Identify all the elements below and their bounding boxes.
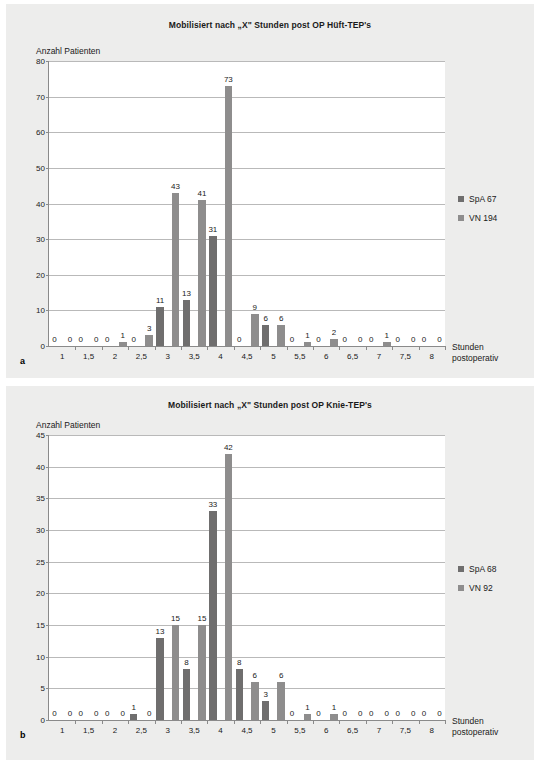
- x-axis-tick-label: 4,5: [241, 726, 252, 735]
- bar-value-label: 3: [263, 690, 267, 699]
- x-axis-tick-mark: [392, 346, 393, 350]
- bar: [198, 200, 206, 346]
- bar-value-label: 0: [52, 335, 56, 344]
- gridline: [49, 97, 445, 98]
- y-axis-title-b: Anzahl Patienten: [36, 420, 100, 430]
- bar: [183, 669, 191, 720]
- bar-value-label: 13: [156, 627, 165, 636]
- x-axis-tick-mark: [128, 346, 129, 350]
- x-axis-tick-label: 3,5: [189, 352, 200, 361]
- y-axis-tick-mark: [46, 562, 49, 563]
- x-axis-tick-label: 7: [377, 352, 381, 361]
- legend-swatch-icon: [458, 215, 464, 221]
- x-axis-title-a-line2: postoperativ: [452, 353, 498, 364]
- x-axis-tick-label: 7,5: [400, 726, 411, 735]
- bar: [251, 682, 259, 720]
- y-axis-tick-label: 80: [36, 57, 45, 66]
- bar-value-label: 1: [305, 703, 309, 712]
- plot-area-b: 0510152025303540451001,5002002,510313153…: [48, 435, 445, 721]
- bar: [383, 342, 391, 346]
- bar-value-label: 0: [105, 335, 109, 344]
- x-axis-tick-mark: [419, 720, 420, 724]
- x-axis-tick-mark: [287, 720, 288, 724]
- bar-value-label: 0: [411, 709, 415, 718]
- gridline: [49, 435, 445, 436]
- x-axis-tick-label: 2: [113, 352, 117, 361]
- bar-value-label: 2: [332, 328, 336, 337]
- bar-value-label: 33: [208, 500, 217, 509]
- bar: [251, 314, 259, 346]
- x-axis-tick-label: 1: [60, 726, 64, 735]
- x-axis-title-a: Stunden postoperativ: [452, 342, 498, 364]
- bar-value-label: 3: [147, 324, 151, 333]
- x-axis-tick-label: 7,5: [400, 352, 411, 361]
- legend-item[interactable]: VN 92: [458, 583, 496, 593]
- chart-title-b: Mobilisiert nach „X" Stunden post OP Kni…: [6, 400, 534, 410]
- x-axis-tick-mark: [155, 720, 156, 724]
- x-axis-tick-label: 5,5: [294, 352, 305, 361]
- panel-letter-a: a: [20, 356, 25, 366]
- legend-label: SpA 68: [469, 564, 496, 574]
- x-axis-tick-label: 6,5: [347, 726, 358, 735]
- x-axis-tick-mark: [313, 720, 314, 724]
- x-axis-tick-mark: [207, 720, 208, 724]
- x-axis-tick-label: 3: [166, 726, 170, 735]
- y-axis-tick-mark: [46, 435, 49, 436]
- bar-value-label: 8: [184, 658, 188, 667]
- y-axis-tick-mark: [46, 239, 49, 240]
- bar-value-label: 0: [395, 709, 399, 718]
- gridline: [49, 310, 445, 311]
- x-axis-tick-mark: [181, 346, 182, 350]
- y-axis-tick-mark: [46, 346, 49, 347]
- bar-value-label: 0: [237, 335, 241, 344]
- x-axis-tick-mark: [392, 720, 393, 724]
- bar-value-label: 0: [343, 709, 347, 718]
- gridline: [49, 657, 445, 658]
- y-axis-tick-mark: [46, 275, 49, 276]
- x-axis-tick-label: 4: [218, 352, 222, 361]
- x-axis-tick-label: 8: [430, 726, 434, 735]
- legend-item[interactable]: SpA 67: [458, 194, 497, 204]
- bar-value-label: 0: [316, 335, 320, 344]
- chart-panel-b: Mobilisiert nach „X" Stunden post OP Kni…: [6, 386, 534, 760]
- bar-value-label: 6: [279, 671, 283, 680]
- bar-value-label: 42: [224, 443, 233, 452]
- y-axis-tick-mark: [46, 593, 49, 594]
- x-axis-tick-label: 1: [60, 352, 64, 361]
- x-axis-tick-label: 6: [324, 726, 328, 735]
- chart-panel-a: Mobilisiert nach „X" Stunden post OP Hüf…: [6, 4, 534, 378]
- bar-value-label: 0: [385, 709, 389, 718]
- y-axis-tick-mark: [46, 132, 49, 133]
- bar-value-label: 0: [437, 335, 441, 344]
- bar-value-label: 0: [290, 335, 294, 344]
- bar-value-label: 1: [305, 331, 309, 340]
- y-axis-tick-mark: [46, 310, 49, 311]
- x-axis-tick-mark: [75, 346, 76, 350]
- chart-title-a: Mobilisiert nach „X" Stunden post OP Hüf…: [6, 20, 534, 30]
- y-axis-tick-label: 5: [41, 684, 45, 693]
- bar: [198, 625, 206, 720]
- x-axis-tick-label: 3: [166, 352, 170, 361]
- y-axis-tick-mark: [46, 97, 49, 98]
- bar: [209, 236, 217, 346]
- legend-b: SpA 68VN 92: [458, 564, 496, 602]
- y-axis-tick-label: 40: [36, 199, 45, 208]
- x-axis-title-a-line1: Stunden: [452, 342, 498, 353]
- gridline: [49, 562, 445, 563]
- x-axis-tick-label: 2: [113, 726, 117, 735]
- bar-value-label: 73: [224, 75, 233, 84]
- x-axis-tick-mark: [128, 720, 129, 724]
- bar-value-label: 0: [68, 335, 72, 344]
- y-axis-tick-label: 20: [36, 270, 45, 279]
- bar-value-label: 0: [68, 709, 72, 718]
- y-axis-tick-label: 40: [36, 462, 45, 471]
- legend-item[interactable]: VN 194: [458, 213, 497, 223]
- gridline: [49, 530, 445, 531]
- bar: [277, 325, 285, 346]
- y-axis-title-a: Anzahl Patienten: [36, 46, 100, 56]
- legend-item[interactable]: SpA 68: [458, 564, 496, 574]
- legend-swatch-icon: [458, 196, 464, 202]
- x-axis-tick-label: 2,5: [136, 726, 147, 735]
- x-axis-title-b-line1: Stunden: [452, 716, 498, 727]
- bar: [172, 625, 180, 720]
